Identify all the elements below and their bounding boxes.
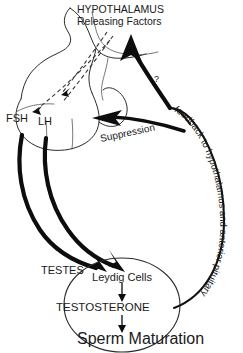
pituitary-lobe-divider-2 xyxy=(72,119,73,149)
label-lh: LH xyxy=(38,115,52,127)
title-releasing-factors: Releasing Factors xyxy=(77,15,162,27)
releasing-factor-arrows xyxy=(32,32,113,115)
label-suppression-group: Suppression xyxy=(99,122,156,144)
pituitary-stalk xyxy=(89,48,96,93)
label-leydig-cells: Leydig Cells xyxy=(92,271,152,283)
lh-arrowhead xyxy=(108,250,125,272)
brain-outline-left xyxy=(21,8,71,99)
label-sperm-maturation: Sperm Maturation xyxy=(77,330,204,347)
feedback-to-hypothalamus-arrow xyxy=(120,34,170,108)
diagram-canvas: HYPOTHALAMUS Releasing Factors FSH LH ? … xyxy=(0,0,243,353)
label-testes: TESTES xyxy=(41,264,84,276)
hpg-axis-diagram: HYPOTHALAMUS Releasing Factors FSH LH ? … xyxy=(0,0,243,353)
title-hypothalamus: HYPOTHALAMUS xyxy=(77,3,164,15)
releasing-factor-dashed-arrow-1 xyxy=(62,32,107,93)
label-suppression: Suppression xyxy=(99,122,156,144)
label-question-mark: ? xyxy=(154,74,159,84)
label-testosterone: TESTOSTERONE xyxy=(56,301,150,313)
gonadotropin-arrows xyxy=(19,135,125,272)
pituitary-stalk-inner xyxy=(102,58,109,100)
label-fsh: FSH xyxy=(6,112,28,124)
feedback-hypothalamus-shaft xyxy=(134,52,170,108)
pituitary-anterior-lobe xyxy=(16,93,99,150)
releasing-factor-arrowhead-2 xyxy=(32,106,42,115)
releasing-factor-dashed-arrow-3 xyxy=(36,40,110,110)
